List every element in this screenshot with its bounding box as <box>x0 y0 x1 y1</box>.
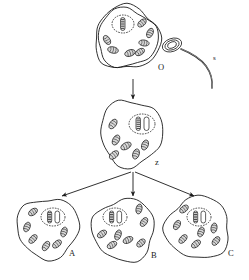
mitochondrion-body <box>145 27 155 39</box>
mitochondrion-body <box>107 46 119 55</box>
mitochondrion-body <box>136 17 147 28</box>
mitochondrion <box>102 34 112 46</box>
mitochondrion <box>111 134 122 147</box>
cell-ovum[interactable] <box>96 3 162 67</box>
chromosome-body <box>55 211 60 223</box>
mitochondrion <box>108 149 120 161</box>
mitochondrion <box>96 229 108 240</box>
cell-cell_c[interactable] <box>163 195 228 257</box>
labels-group: OzABCs <box>69 54 234 260</box>
mitochondrion-body <box>113 229 122 241</box>
mitochondrion <box>131 148 140 160</box>
mitochondrion <box>124 48 136 57</box>
sperm-head <box>160 35 183 54</box>
mitochondrion-body <box>210 223 218 234</box>
mitochondrion-body <box>134 47 146 57</box>
mitochondrion-body <box>124 48 136 57</box>
mitochondrion <box>27 207 39 218</box>
mitochondrion <box>107 118 118 131</box>
label-cell_c: C <box>228 248 234 258</box>
chromosome-maternal <box>121 18 126 31</box>
mitochondrion-body <box>111 134 122 147</box>
mitochondrion-body <box>211 235 222 247</box>
arrows-group <box>62 79 194 196</box>
mitochondrion-body <box>106 240 118 250</box>
mitochondrion <box>27 233 38 245</box>
mitochondrion-body <box>135 203 143 214</box>
cells-group <box>17 3 228 262</box>
nucleus-membrane <box>187 208 211 226</box>
sperm-group <box>160 35 212 88</box>
label-sperm: s <box>213 54 216 62</box>
chromosome-paternal <box>201 211 206 223</box>
mitochondrion-body <box>41 240 52 252</box>
chromosome-paternal <box>144 117 149 131</box>
cell-membrane <box>91 198 154 262</box>
chromosome-maternal <box>194 211 198 223</box>
sperm[interactable] <box>160 35 212 88</box>
mitochondrion <box>138 39 149 46</box>
chromosome-maternal <box>110 211 114 223</box>
mitochondrion <box>136 17 147 28</box>
chromosome-paternal <box>117 211 122 223</box>
mitochondrion <box>196 226 205 237</box>
mitochondrion <box>140 139 150 151</box>
mitochondrion-body <box>60 226 69 237</box>
mitochondrion <box>177 233 188 245</box>
mitochondrion <box>190 238 202 249</box>
mitochondrion-body <box>120 141 133 152</box>
mitochondrion <box>178 203 190 214</box>
diagram-canvas: OzABCs <box>0 0 249 280</box>
chromosome-body <box>117 211 122 223</box>
mitochondrion-body <box>172 219 182 231</box>
mitochondrion-body <box>131 148 140 160</box>
mitochondrion-body <box>51 238 63 249</box>
sperm-head-ring <box>164 38 181 52</box>
arrow-zygote-to-a <box>62 172 131 196</box>
mitochondrion-body <box>122 235 134 245</box>
mitochondrion <box>139 216 150 228</box>
mitochondrion <box>145 27 155 39</box>
mitochondrion <box>60 226 69 237</box>
label-cell_a: A <box>69 248 76 258</box>
mitochondrion <box>51 238 63 249</box>
mitochondrion <box>120 141 133 152</box>
cell-cell_b[interactable] <box>91 198 154 262</box>
mitochondrion-body <box>27 233 38 245</box>
mitochondrion-body <box>22 221 31 233</box>
mitochondrion <box>211 235 222 247</box>
mitochondrion-body <box>96 229 108 240</box>
mitochondrion <box>41 240 52 252</box>
cell-zygote[interactable] <box>101 100 163 169</box>
mitochondrion-body <box>196 226 205 237</box>
sperm-tail-highlight <box>181 49 212 88</box>
mitochondrion-body <box>135 237 146 248</box>
mitochondrion-body <box>27 207 39 218</box>
mitochondrion-body <box>139 216 150 228</box>
mitochondrion-body <box>140 139 150 151</box>
mitochondrion-body <box>102 34 112 46</box>
mitochondrion <box>113 229 122 241</box>
mitochondrion-body <box>190 238 202 249</box>
label-cell_b: B <box>151 250 157 260</box>
mitochondrial-inheritance-diagram: OzABCs <box>0 0 249 280</box>
mitochondrion-body <box>107 118 118 131</box>
mitochondrion-body <box>108 149 120 161</box>
mitochondrion <box>106 240 118 250</box>
mitochondrion <box>22 221 31 233</box>
nucleus-membrane <box>41 208 65 226</box>
mitochondrion <box>135 203 143 214</box>
mitochondrion-body <box>178 203 190 214</box>
sperm-head-ring <box>160 35 183 54</box>
mitochondrion <box>135 237 146 248</box>
mitochondrion-body <box>177 233 188 245</box>
mitochondrion <box>122 235 134 245</box>
mitochondrion <box>172 219 182 231</box>
chromosome-body <box>201 211 206 223</box>
nucleus-membrane <box>103 208 127 226</box>
label-zygote: z <box>155 157 159 167</box>
mitochondrion-body <box>138 39 149 46</box>
mitochondrion <box>107 46 119 55</box>
arrow-zygote-to-c <box>135 172 194 196</box>
nucleus-membrane <box>129 114 155 134</box>
